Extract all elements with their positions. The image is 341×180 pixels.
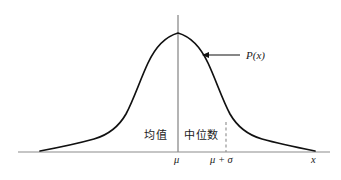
axis-label-x: x [311, 155, 316, 166]
chart-canvas [0, 0, 341, 180]
tick-label-mu-plus-sigma: μ + σ [210, 155, 233, 166]
tick-label-mu: μ [174, 155, 179, 166]
median-region-label: 中位数 [184, 130, 219, 141]
mean-region-label: 均值 [144, 130, 167, 141]
density-function-label: P(x) [246, 50, 265, 61]
distribution-figure: 均值 中位数 P(x) μ μ + σ x [0, 0, 341, 180]
